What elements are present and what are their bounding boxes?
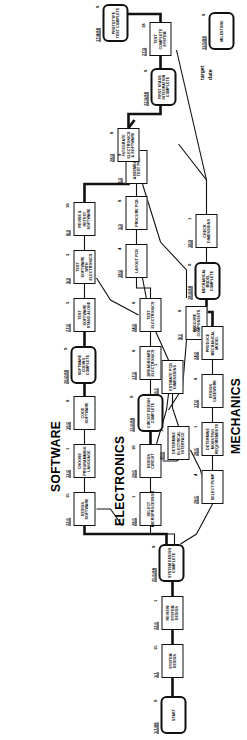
date-detelecint: 30/1 [158, 452, 163, 460]
node-circuit-design-complete-label: CIRCUIT DESIGN COMPLETE [146, 396, 155, 430]
node-start[interactable]: START [160, 696, 186, 734]
date-cktcomplete: 12/2/88 [128, 418, 133, 432]
duration-designcase: 8 [192, 378, 197, 380]
swimlane-label-electronics: ELECTRONICS [112, 436, 126, 526]
date-revise: 8/3 [64, 230, 69, 236]
node-start-label: START [171, 708, 175, 722]
date-procurepcb: 1/3 [116, 224, 121, 230]
node-integrate-electronics-software-label: INTEGRATE ELECTRONICS & SOFTWARE [121, 129, 134, 161]
duration-checkdim: 1 [186, 218, 191, 220]
swimlane-label-mechanics: MECHANICS [228, 378, 242, 454]
date-designcase: 17/2 [192, 400, 197, 408]
link-testelec-testswelec [96, 278, 138, 315]
node-system-design-complete[interactable]: SYSTEM DESIGN COMPLETE [158, 544, 184, 582]
node-design-casework[interactable]: DESIGN CASEWORK [201, 374, 223, 408]
node-prototype-test-complete-label: PROTOTYPE TEST COMPLETE [111, 6, 120, 40]
duration-reviewsys: 1 [152, 600, 157, 602]
duration-detmount: 1 [192, 426, 197, 428]
node-procure-components-label: PROCURE COMPONENTS [192, 307, 201, 339]
date-mechmodcomp: 18/3/88 [186, 286, 191, 300]
node-determine-electrical-interface[interactable]: DETERMINE ELECTRICAL INTERFACE [167, 426, 189, 460]
date-reviewsys: 22/1 [152, 622, 157, 630]
node-integrate-electronics-software[interactable]: INTEGRATE ELECTRONICS & SOFTWARE [117, 128, 139, 162]
duration-designsw: 15 [64, 493, 69, 498]
node-prototype-test-complete[interactable]: PROTOTYPE TEST COMPLETE [102, 4, 128, 42]
node-design-casework-label: DESIGN CASEWORK [208, 375, 217, 407]
duration-layoutpcb: 4 [116, 248, 121, 250]
node-design-software-label: DESIGN SOFTWARE [80, 493, 89, 525]
node-test-software-stand-alone-label: TEST SOFTWARE STAND ALONE [77, 299, 90, 331]
node-software-coding-complete[interactable]: SOFTWARE CODING COMPLETE [70, 346, 96, 384]
connector-layer [0, 0, 247, 740]
node-software-coding-complete-label: SOFTWARE CODING COMPLETE [77, 348, 90, 382]
legend-target-date-label: target date [198, 66, 213, 80]
node-produce-mechanical-model[interactable]: PRODUCE MECHANICAL MODEL [201, 326, 223, 360]
node-estimate-pcb-dimensions[interactable]: ESTIMATE PCB DIMENSIONS [161, 360, 183, 394]
node-layout-pcb[interactable]: LAYOUT PCB [125, 244, 147, 278]
node-circuit-design-complete[interactable]: CIRCUIT DESIGN COMPLETE [137, 394, 163, 432]
duration-mechmodcomp: 0 [186, 264, 191, 266]
date-designsw: 22/1 [64, 518, 69, 526]
duration-testcompsys: 18 [140, 23, 145, 28]
node-system-design[interactable]: SYSTEM DESIGN [161, 644, 183, 678]
node-produce-mechanical-model-label: PRODUCE MECHANICAL MODEL [205, 327, 218, 359]
node-design-circuit-label: DESIGN CIRCUIT [146, 445, 155, 477]
duration-start: 0 [152, 700, 157, 702]
duration-sysdesign: 15 [152, 645, 157, 650]
node-check-dimensions[interactable]: CHECK DIMENSIONS [195, 214, 217, 248]
duration-prototest: 0 [94, 6, 99, 8]
date-codesw: 16/2 [64, 422, 69, 430]
node-select-pump[interactable]: SELECT PUMP [201, 470, 223, 504]
date-testcompsys: 27/3 [140, 48, 145, 56]
date-procurecomp: 9/2 [176, 334, 181, 340]
date-swcoding: 26/2/88 [62, 370, 67, 384]
date-prototest: 17/4/88 [94, 28, 99, 42]
node-layout-pcb-label: LAYOUT PCB [134, 248, 138, 274]
duration-chooselang: 1 [64, 448, 69, 450]
duration-firststage: 0 [142, 70, 147, 72]
date-estpcbdim: 2/2 [152, 388, 157, 394]
legend-milestone-duration: 0 [200, 14, 205, 16]
node-revise-retest-software-label: REVISE & RETEST SOFTWARE [77, 203, 90, 235]
node-choose-programming-language[interactable]: CHOOSE PROGRAMMING LANGUAGE [73, 444, 95, 478]
diagram-plane: SOFTWARE ELECTRONICS MECHANICS 1/1/88 0 … [0, 0, 247, 740]
duration-sysdcomp: 0 [150, 546, 155, 548]
node-test-software-stand-alone[interactable]: TEST SOFTWARE STAND ALONE [73, 298, 95, 332]
legend-milestone-node: MILESTONE [208, 12, 234, 50]
node-first-stage-integration-complete-label: FIRST STAGE INTEGRATION COMPLETE [157, 70, 170, 104]
node-procure-pcb-label: PROCURE PCB [134, 198, 138, 228]
node-code-software-label: CODE SOFTWARE [80, 397, 89, 429]
date-prodmechmod: 24/2 [192, 352, 197, 360]
node-test-software-with-electronics[interactable]: TEST SOFTWARE WITH ELECTRONICS [73, 250, 95, 284]
link-checkdim-firststage [178, 144, 206, 214]
node-test-electronics[interactable]: TEST ELECTRONICS [139, 298, 161, 332]
date-firststage: 22/3/88 [142, 92, 147, 106]
node-code-software[interactable]: CODE SOFTWARE [73, 396, 95, 430]
duration-selectpump: 4 [192, 474, 197, 476]
date-designckt: 29/1 [130, 470, 135, 478]
date-chooselang: 12/2 [64, 470, 69, 478]
node-breadboard-electronics[interactable]: BREADBOARD ELECTRONICS [139, 346, 161, 380]
node-mechanical-model-complete[interactable]: MECHANICAL MODEL COMPLETE [194, 262, 220, 300]
node-first-stage-integration-complete[interactable]: FIRST STAGE INTEGRATION COMPLETE [150, 68, 176, 106]
duration-swcoding: 0 [62, 348, 67, 350]
node-select-microprocessor[interactable]: SELECT MICROPROCESSOR [139, 492, 161, 526]
date-detmount: 28/1 [192, 448, 197, 456]
duration-testswalone: 5 [64, 302, 69, 304]
node-estimate-pcb-dimensions-label: ESTIMATE PCB DIMENSIONS [168, 361, 177, 393]
duration-detelecint: 1 [158, 430, 163, 432]
node-test-electronics-label: TEST ELECTRONICS [146, 299, 155, 331]
duration-cktcomplete: 0 [128, 396, 133, 398]
node-choose-programming-language-label: CHOOSE PROGRAMMING LANGUAGE [77, 445, 90, 477]
node-design-circuit[interactable]: DESIGN CIRCUIT [139, 444, 161, 478]
node-procure-pcb[interactable]: PROCURE PCB [125, 196, 147, 230]
date-assemblepcb: 2/3 [116, 178, 121, 184]
node-design-software[interactable]: DESIGN SOFTWARE [73, 492, 95, 526]
node-determine-mounting-requirements[interactable]: DETERMINE MOUNTING REQUIREMENTS [201, 422, 223, 456]
node-determine-mounting-requirements-label: DETERMINE MOUNTING REQUIREMENTS [205, 423, 218, 455]
node-review-system-design[interactable]: REVIEW SYSTEM DESIGN [161, 596, 183, 630]
node-test-complete-system[interactable]: TEST COMPLETE SYSTEM [149, 22, 171, 56]
node-revise-retest-software[interactable]: REVISE & RETEST SOFTWARE [73, 202, 95, 236]
link-sysdcomp-designsw [84, 526, 166, 544]
duration-selectmicro: 1 [130, 496, 135, 498]
